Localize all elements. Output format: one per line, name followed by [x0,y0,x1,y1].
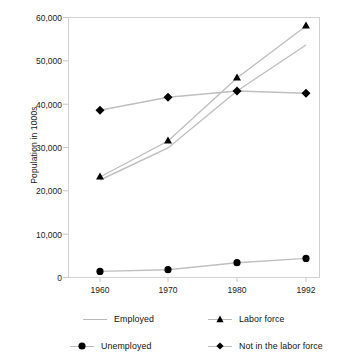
legend-label: Employed [114,314,154,324]
x-tick-label: 1980 [212,286,262,295]
legend-swatch-triangle-icon [208,312,232,326]
x-tick-label: 1970 [143,286,193,295]
legend-swatch-diamond-icon [208,339,232,353]
legend-item-employed[interactable]: Employed [83,311,154,327]
x-tick-label: 1960 [75,286,125,295]
legend-item-not-in-labor-force[interactable]: Not in the labor force [208,338,323,354]
x-tick-label: 1992 [281,286,331,295]
line-chart: Population in 1000s 0 10,000 20,000 30,0… [0,0,359,363]
legend-label: Labor force [239,314,285,324]
legend-item-labor-force[interactable]: Labor force [208,311,285,327]
legend-label: Not in the labor force [239,341,323,351]
chart-legend: Employed Labor force Unemployed [0,303,359,361]
legend-label: Unemployed [101,341,151,351]
legend-item-unemployed[interactable]: Unemployed [70,338,151,354]
legend-swatch-circle-icon [70,339,94,353]
legend-swatch-line-icon [83,312,107,326]
